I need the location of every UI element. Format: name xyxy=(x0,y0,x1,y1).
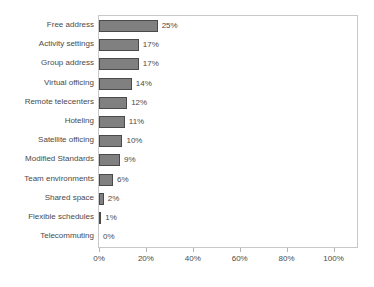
bar-row: 1% xyxy=(99,209,357,227)
x-axis-tick xyxy=(193,248,194,252)
category-label: Telecommuting xyxy=(0,231,94,240)
category-axis-labels: Free addressActivity settingsGroup addre… xyxy=(0,15,94,248)
bar-value-label: 12% xyxy=(131,97,147,109)
bar-row: 17% xyxy=(99,36,357,54)
category-label: Team environments xyxy=(0,174,94,183)
x-axis-tick-label: 100% xyxy=(323,254,343,263)
x-axis: 0%20%40%60%80%100% xyxy=(98,248,358,270)
x-axis-tick-label: 20% xyxy=(138,254,154,263)
bar-value-label: 0% xyxy=(103,231,115,243)
bar-row: 25% xyxy=(99,17,357,35)
bar-row: 12% xyxy=(99,94,357,112)
bar-value-label: 2% xyxy=(108,193,120,205)
bar-value-label: 25% xyxy=(162,20,178,32)
bar-value-label: 10% xyxy=(126,135,142,147)
bar[interactable] xyxy=(99,154,120,166)
category-label: Hoteling xyxy=(0,116,94,125)
x-axis-tick xyxy=(146,248,147,252)
bar[interactable] xyxy=(99,174,113,186)
bar[interactable] xyxy=(99,39,139,51)
x-axis-tick-label: 40% xyxy=(185,254,201,263)
x-axis-tick-label: 80% xyxy=(279,254,295,263)
x-axis-tick xyxy=(99,248,100,252)
category-label: Shared space xyxy=(0,193,94,202)
bar-value-label: 9% xyxy=(124,154,136,166)
bar-row: 17% xyxy=(99,55,357,73)
bar-row: 0% xyxy=(99,228,357,246)
bar[interactable] xyxy=(99,116,125,128)
category-label: Activity settings xyxy=(0,39,94,48)
bar-row: 10% xyxy=(99,132,357,150)
category-label: Flexible schedules xyxy=(0,212,94,221)
bar-value-label: 14% xyxy=(136,78,152,90)
x-axis-tick xyxy=(334,248,335,252)
category-label: Virtual officing xyxy=(0,78,94,87)
bars-container: 25%17%17%14%12%11%10%9%6%2%1%0% xyxy=(99,16,357,247)
x-axis-tick xyxy=(240,248,241,252)
category-label: Free address xyxy=(0,20,94,29)
bar-row: 2% xyxy=(99,190,357,208)
x-axis-tick-label: 0% xyxy=(93,254,105,263)
bar-value-label: 11% xyxy=(129,116,144,128)
bar-chart: . Free addressActivity settingsGroup add… xyxy=(0,0,374,287)
bar-row: 6% xyxy=(99,171,357,189)
bar[interactable] xyxy=(99,97,127,109)
bar[interactable] xyxy=(99,78,132,90)
x-axis-tick-label: 60% xyxy=(232,254,248,263)
bar-value-label: 17% xyxy=(143,58,159,70)
top-edge-artifact: . xyxy=(150,0,300,5)
category-label: Modified Standards xyxy=(0,154,94,163)
category-label: Satellite officing xyxy=(0,135,94,144)
category-label: Remote telecenters xyxy=(0,97,94,106)
bar[interactable] xyxy=(99,135,122,147)
bar-row: 11% xyxy=(99,113,357,131)
category-label: Group address xyxy=(0,58,94,67)
bar[interactable] xyxy=(99,193,104,205)
bar-value-label: 17% xyxy=(143,39,159,51)
bar-value-label: 6% xyxy=(117,174,129,186)
bar[interactable] xyxy=(99,20,158,32)
bar-value-label: 1% xyxy=(105,212,117,224)
bar-row: 14% xyxy=(99,75,357,93)
bar[interactable] xyxy=(99,58,139,70)
bar[interactable] xyxy=(99,212,101,224)
x-axis-tick xyxy=(287,248,288,252)
bar-row: 9% xyxy=(99,151,357,169)
